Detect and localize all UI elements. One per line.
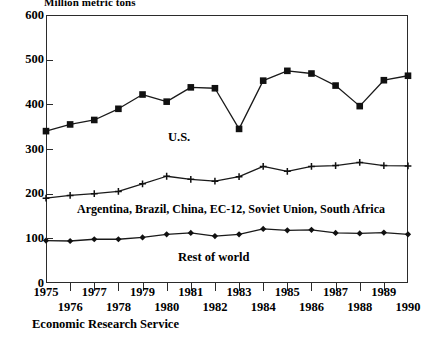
plot-area: [46, 15, 408, 283]
x-tick-label: 1986: [288, 301, 334, 314]
x-tick-label: 1990: [385, 301, 425, 314]
x-tick-label: 1982: [192, 301, 238, 314]
chart-figure: Million metric tons U.S. Argentina, Braz…: [0, 0, 425, 341]
x-tick-label: 1988: [337, 301, 383, 314]
series-label-rest-of-world: Rest of world: [178, 251, 250, 264]
x-tick-label: 1978: [95, 301, 141, 314]
x-tick-label: 1980: [144, 301, 190, 314]
y-tick-mark: [46, 194, 53, 195]
x-tick-label: 1976: [47, 301, 93, 314]
x-tick-label: 1983: [216, 286, 262, 299]
y-axis-title: Million metric tons: [44, 0, 136, 8]
y-tick-label: 400: [4, 98, 44, 110]
y-tick-mark: [46, 149, 53, 150]
x-tick-label: 1975: [23, 286, 69, 299]
x-tick-label: 1989: [361, 286, 407, 299]
x-tick-label: 1984: [240, 301, 286, 314]
x-tick-label: 1985: [264, 286, 310, 299]
x-tick-label: 1981: [168, 286, 214, 299]
y-tick-mark: [46, 60, 53, 61]
source-note: Economic Research Service: [32, 318, 179, 331]
y-tick-label: 600: [4, 9, 44, 21]
y-tick-label: 200: [4, 187, 44, 199]
x-tick-label: 1977: [71, 286, 117, 299]
series-label-six-countries: Argentina, Brazil, China, EC-12, Soviet …: [77, 203, 385, 216]
y-tick-label: 100: [4, 232, 44, 244]
y-tick-mark: [46, 238, 53, 239]
y-tick-mark: [46, 104, 53, 105]
series-label-us: U.S.: [168, 131, 190, 144]
y-tick-label: 500: [4, 53, 44, 65]
y-tick-label: 300: [4, 143, 44, 155]
x-tick-label: 1987: [313, 286, 359, 299]
x-tick-label: 1979: [120, 286, 166, 299]
